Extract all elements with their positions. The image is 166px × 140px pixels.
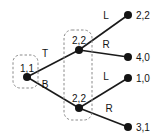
- action-label-lower-r: R: [105, 103, 112, 114]
- node-label-upper: 2,2: [72, 35, 86, 46]
- terminal-node-3[interactable]: [124, 74, 132, 82]
- action-label-lower-l: L: [103, 71, 109, 82]
- terminal-node-2[interactable]: [124, 53, 132, 61]
- node-label-root: 1,1: [20, 63, 34, 74]
- action-label-upper-l: L: [103, 10, 109, 21]
- node-label-lower: 2,2: [72, 93, 86, 104]
- edge-lower-to-terminal-3: [79, 78, 128, 108]
- node-upper-player2[interactable]: [75, 46, 83, 54]
- payoff-label-3: 1,0: [136, 73, 150, 84]
- node-lower-player2[interactable]: [75, 104, 83, 112]
- edge-lower-to-terminal-4: [79, 108, 128, 127]
- payoff-label-2: 4,0: [136, 52, 150, 63]
- edge-upper-to-terminal-2: [79, 50, 128, 57]
- terminal-node-4[interactable]: [124, 123, 132, 131]
- payoff-label-4: 3,1: [136, 122, 150, 133]
- game-tree-canvas: 1,1 2,2 2,2 T B L R L R 2,2 4,0 1,0 3,1: [0, 0, 166, 140]
- action-label-b: B: [42, 79, 49, 90]
- action-label-upper-r: R: [102, 39, 109, 50]
- terminal-node-1[interactable]: [124, 11, 132, 19]
- game-tree-diagram: 1,1 2,2 2,2 T B L R L R 2,2 4,0 1,0 3,1: [0, 0, 166, 140]
- edge-root-to-upper: [27, 50, 79, 77]
- payoff-label-1: 2,2: [136, 10, 150, 21]
- action-label-t: T: [42, 48, 48, 59]
- node-root[interactable]: [23, 73, 31, 81]
